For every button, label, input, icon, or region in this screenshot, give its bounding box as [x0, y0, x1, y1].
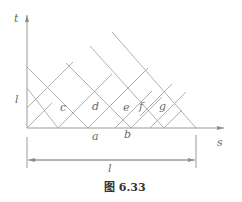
figure-caption: 图 6.33: [104, 181, 146, 194]
t-axis-label: t: [14, 12, 19, 25]
cell-label-e: e: [123, 101, 130, 114]
characteristic-diagram: t l s c d e f g a b l 图 6.33: [0, 0, 242, 202]
cell-label-g: g: [159, 100, 166, 113]
dimension-label: l: [108, 162, 112, 175]
point-label-a: a: [92, 130, 99, 143]
point-label-b: b: [124, 128, 131, 141]
cell-label-c: c: [60, 101, 66, 114]
descending-characteristics: [27, 32, 196, 128]
cell-label-f: f: [138, 100, 145, 113]
cell-label-d: d: [92, 100, 99, 113]
t-tick-label: l: [15, 93, 19, 106]
s-axis-label: s: [217, 136, 223, 149]
